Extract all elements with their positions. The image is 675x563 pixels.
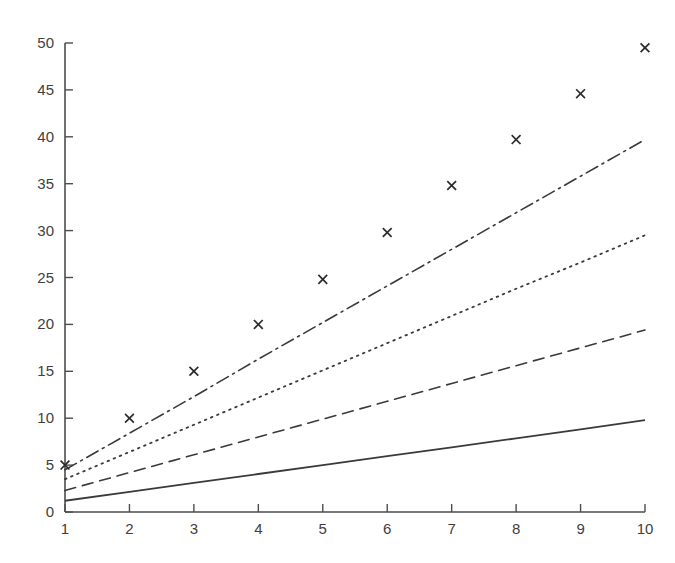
y-tick-label: 30 xyxy=(37,222,54,239)
y-tick-label: 10 xyxy=(37,409,54,426)
x-tick-label: 2 xyxy=(125,520,133,537)
y-tick-label: 5 xyxy=(46,456,54,473)
y-tick-label: 25 xyxy=(37,269,54,286)
chart-background xyxy=(0,0,675,563)
x-tick-label: 8 xyxy=(512,520,520,537)
x-tick-label: 4 xyxy=(254,520,262,537)
chart-figure: 05101520253035404550 12345678910 xyxy=(0,0,675,563)
y-tick-label: 45 xyxy=(37,81,54,98)
x-tick-label: 1 xyxy=(61,520,69,537)
x-tick-label: 10 xyxy=(637,520,654,537)
x-tick-label: 3 xyxy=(190,520,198,537)
x-tick-label: 9 xyxy=(576,520,584,537)
x-tick-label: 7 xyxy=(447,520,455,537)
y-tick-label: 50 xyxy=(37,34,54,51)
x-tick-label: 6 xyxy=(383,520,391,537)
y-tick-label: 35 xyxy=(37,175,54,192)
y-tick-label: 40 xyxy=(37,128,54,145)
x-tick-label: 5 xyxy=(319,520,327,537)
y-tick-label: 20 xyxy=(37,315,54,332)
y-tick-label: 0 xyxy=(46,503,54,520)
plot-canvas: 05101520253035404550 12345678910 xyxy=(0,0,675,563)
y-tick-label: 15 xyxy=(37,362,54,379)
